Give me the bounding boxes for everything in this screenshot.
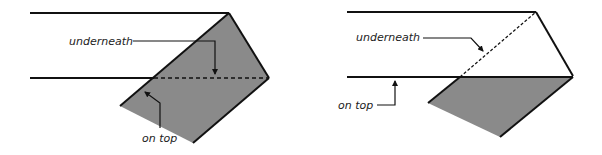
right-strip-end-edge — [536, 12, 573, 76]
left-underneath-label: underneath — [69, 35, 133, 48]
right-underneath-label: underneath — [356, 31, 420, 44]
right-on-top-leader-arrow — [377, 81, 395, 105]
fold-diagram-canvas: underneath on top underneath on top — [0, 0, 602, 155]
right-underneath-leader-arrow — [423, 38, 483, 51]
right-hidden-edge-dashed — [460, 12, 536, 77]
left-on-top-label: on top — [142, 132, 177, 145]
right-fold-diagram: underneath on top — [338, 12, 573, 137]
right-on-top-label: on top — [338, 99, 373, 112]
left-fold-diagram: underneath on top — [30, 13, 269, 145]
